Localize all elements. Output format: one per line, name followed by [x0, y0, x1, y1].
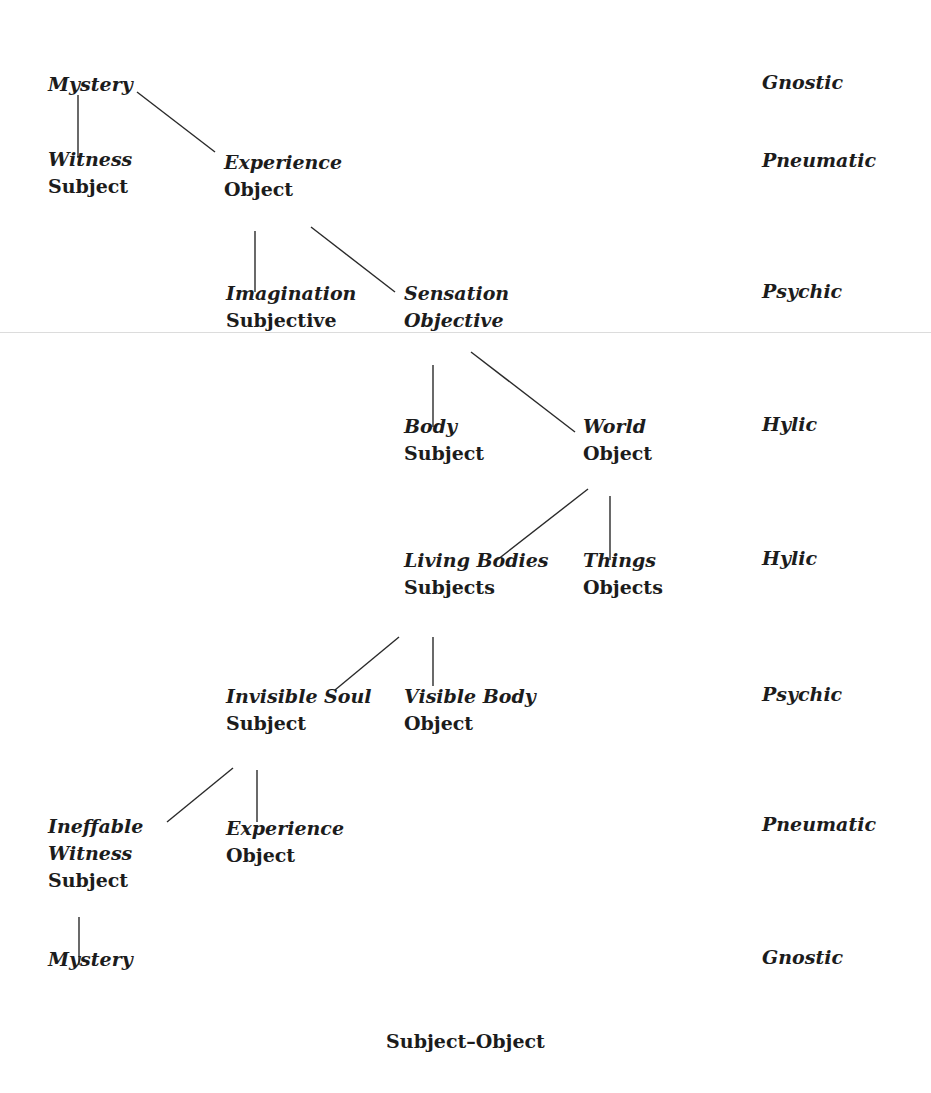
node-label-line: Sensation [404, 280, 509, 307]
node-label-line: Object [404, 710, 536, 737]
node-mystery-top: Mystery [48, 71, 133, 98]
node-ineffable-witness: IneffableWitnessSubject [48, 813, 143, 894]
node-label-line: Invisible Soul [226, 683, 372, 710]
level-label: Hylic [762, 547, 817, 569]
edge-invisible-soul-to-ineffable-witness [167, 768, 233, 822]
level-label: Hylic [762, 413, 817, 435]
diagram-caption: Subject–Object [0, 1030, 931, 1052]
node-label-line: Objective [404, 307, 509, 334]
level-label: Pneumatic [762, 149, 876, 171]
node-label-line: Object [583, 440, 652, 467]
node-label-line: World [583, 413, 652, 440]
node-label-line: Body [404, 413, 484, 440]
node-label-line: Ineffable [48, 813, 143, 840]
node-label-line: Things [583, 547, 663, 574]
node-living-bodies: Living BodiesSubjects [404, 547, 549, 601]
node-label-line: Object [226, 842, 344, 869]
level-label: Gnostic [762, 71, 843, 93]
node-label-line: Experience [226, 815, 344, 842]
node-label-line: Visible Body [404, 683, 536, 710]
node-imagination: ImaginationSubjective [226, 280, 356, 334]
node-witness: WitnessSubject [48, 146, 132, 200]
node-label-line: Imagination [226, 280, 356, 307]
node-label-line: Subjective [226, 307, 356, 334]
level-label: Psychic [762, 280, 842, 302]
node-label-line: Subject [226, 710, 372, 737]
node-label-line: Subject [404, 440, 484, 467]
node-label-line: Mystery [48, 946, 133, 973]
level-label: Psychic [762, 683, 842, 705]
level-label: Gnostic [762, 946, 843, 968]
level-label: Pneumatic [762, 813, 876, 835]
node-label-line: Subjects [404, 574, 549, 601]
node-visible-body: Visible BodyObject [404, 683, 536, 737]
node-label-line: Subject [48, 867, 143, 894]
edge-sensation-to-world [471, 352, 575, 432]
node-things: ThingsObjects [583, 547, 663, 601]
node-label-line: Experience [224, 149, 342, 176]
node-sensation: SensationObjective [404, 280, 509, 334]
node-mystery-bottom: Mystery [48, 946, 133, 973]
node-label-line: Object [224, 176, 342, 203]
edge-mystery-top-to-experience-top [137, 92, 215, 152]
node-label-line: Objects [583, 574, 663, 601]
node-body: BodySubject [404, 413, 484, 467]
node-invisible-soul: Invisible SoulSubject [226, 683, 372, 737]
node-experience-top: ExperienceObject [224, 149, 342, 203]
node-label-line: Subject [48, 173, 132, 200]
node-world: WorldObject [583, 413, 652, 467]
node-label-line: Witness [48, 840, 143, 867]
node-label-line: Living Bodies [404, 547, 549, 574]
node-experience-bottom: ExperienceObject [226, 815, 344, 869]
node-label-line: Mystery [48, 71, 133, 98]
node-label-line: Witness [48, 146, 132, 173]
